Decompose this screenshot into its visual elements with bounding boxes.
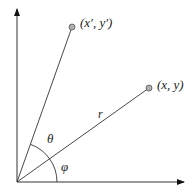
vector-original xyxy=(17,88,149,182)
point-rotated xyxy=(69,24,75,30)
label-original-point: (x, y) xyxy=(157,77,184,92)
label-radius: r xyxy=(98,107,103,121)
rotation-diagram: (x′, y′) (x, y) r θ φ xyxy=(0,0,192,193)
label-theta: θ xyxy=(47,131,54,146)
point-original xyxy=(146,85,152,91)
label-rotated-point: (x′, y′) xyxy=(80,15,112,30)
label-phi: φ xyxy=(61,159,68,174)
